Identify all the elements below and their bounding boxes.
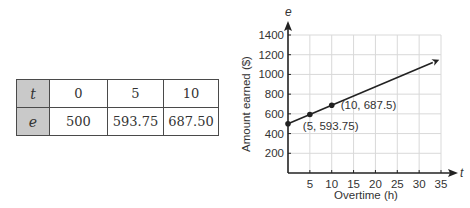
- point-annotation: (10, 687.5): [341, 99, 397, 111]
- point-annotation: (5, 593.75): [303, 120, 359, 132]
- y-tick-label: 800: [265, 88, 284, 100]
- x-tick-label: 30: [413, 178, 426, 190]
- y-tick-label: 1000: [258, 68, 284, 80]
- chart-series: [285, 59, 439, 126]
- y-tick-label: 1400: [258, 29, 284, 41]
- x-axis-label: Overtime (h): [334, 189, 398, 201]
- data-point: [307, 112, 313, 118]
- data-point: [329, 102, 335, 108]
- line-chart: 5101520253035200400600800100012001400 Ov…: [0, 0, 470, 208]
- x-variable-label: t: [460, 166, 464, 180]
- y-variable-label: e: [285, 5, 292, 19]
- y-tick-label: 400: [265, 128, 284, 140]
- y-tick-label: 600: [265, 108, 284, 120]
- data-point: [285, 121, 291, 127]
- x-tick-label: 5: [307, 178, 313, 190]
- y-tick-label: 200: [265, 147, 284, 159]
- x-tick-label: 35: [435, 178, 448, 190]
- y-axis-label: Amount earned ($): [240, 56, 252, 152]
- y-tick-label: 1200: [258, 49, 284, 61]
